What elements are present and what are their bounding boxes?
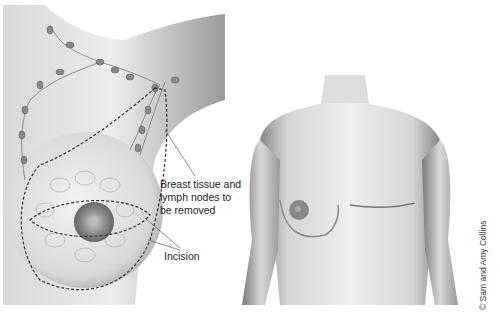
copyright-credit: © Sam and Amy Collins [478,221,488,310]
torso-diagram [230,0,480,314]
post-surgery-illustration [230,0,480,314]
breast-lymph-diagram [0,0,250,305]
incision-label: Incision [164,250,200,263]
pre-surgery-illustration: Breast tissue and lymph nodes to be remo… [0,0,250,305]
